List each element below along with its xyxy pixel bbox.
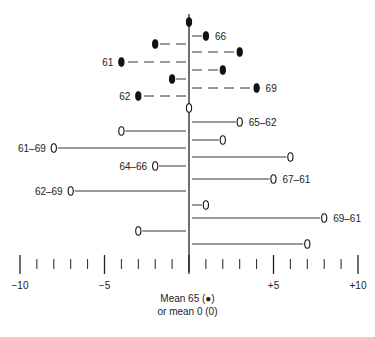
x-tick-label: −10 bbox=[12, 280, 29, 291]
filled-point-marker bbox=[119, 58, 124, 66]
point-label: 69 bbox=[266, 83, 278, 94]
point-label: 65–62 bbox=[249, 117, 277, 128]
caption-line-2: or mean 0 (0) bbox=[0, 306, 375, 317]
filled-point-marker bbox=[254, 84, 259, 92]
point-label: 66 bbox=[215, 31, 227, 42]
point-label: 61 bbox=[102, 57, 114, 68]
filled-point-marker bbox=[203, 32, 208, 40]
caption-line-1: Mean 65 (●) bbox=[0, 293, 375, 304]
x-tick-label: +5 bbox=[268, 280, 280, 291]
filled-point-marker bbox=[237, 48, 242, 56]
open-point-marker bbox=[322, 214, 327, 222]
open-point-marker bbox=[271, 175, 276, 183]
open-point-marker bbox=[186, 104, 191, 112]
filled-point-marker bbox=[136, 92, 141, 100]
point-label: 62–69 bbox=[35, 186, 63, 197]
filled-point-marker bbox=[170, 75, 175, 83]
open-point-marker bbox=[288, 153, 293, 161]
x-tick-label: −5 bbox=[99, 280, 111, 291]
deviation-chart: 6661696265–6261–6964–6667–6162–6969–61−1… bbox=[0, 0, 375, 337]
open-point-marker bbox=[203, 201, 208, 209]
open-point-marker bbox=[136, 227, 141, 235]
filled-point-marker bbox=[186, 18, 191, 26]
point-label: 69–61 bbox=[333, 213, 361, 224]
filled-point-marker bbox=[220, 66, 225, 74]
x-tick-label: +10 bbox=[350, 280, 367, 291]
open-point-marker bbox=[119, 127, 124, 135]
open-point-marker bbox=[68, 187, 73, 195]
open-point-marker bbox=[153, 162, 158, 170]
filled-point-marker bbox=[153, 40, 158, 48]
open-point-marker bbox=[237, 118, 242, 126]
point-label: 64–66 bbox=[119, 161, 147, 172]
point-label: 62 bbox=[119, 91, 131, 102]
open-point-marker bbox=[51, 144, 56, 152]
open-point-marker bbox=[305, 240, 310, 248]
point-label: 61–69 bbox=[18, 143, 46, 154]
open-point-marker bbox=[220, 136, 225, 144]
point-label: 67–61 bbox=[283, 174, 311, 185]
